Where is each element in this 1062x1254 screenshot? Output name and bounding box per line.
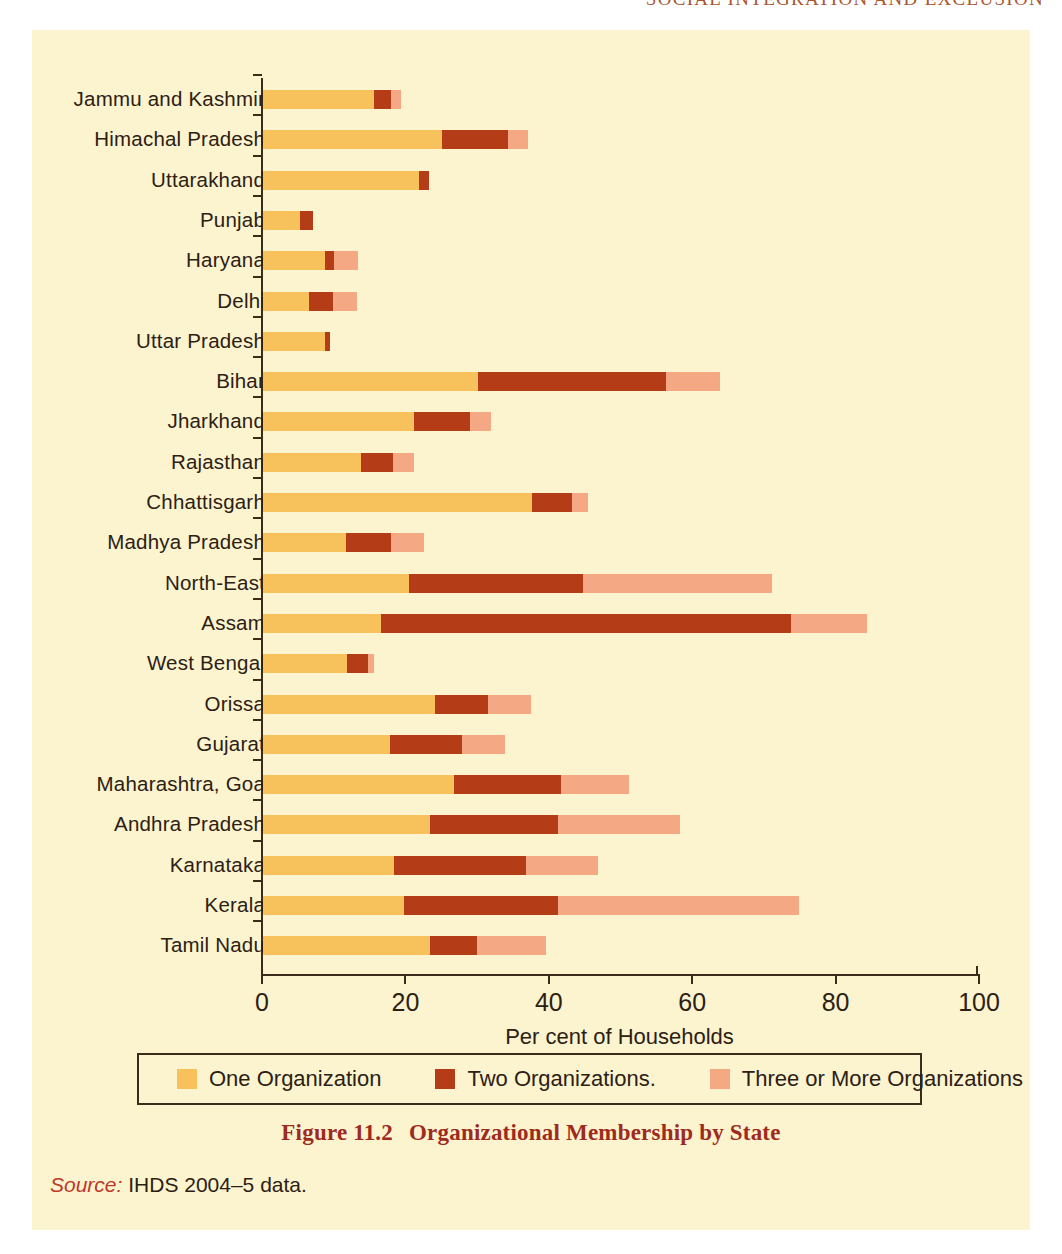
figure-caption: Figure 11.2Organizational Membership by … (32, 1120, 1030, 1146)
running-head: SOCIAL INTEGRATION AND EXCLUSION (0, 0, 1062, 10)
bar-segment (263, 775, 454, 794)
bar-segment (263, 332, 325, 351)
x-axis-tick-label: 20 (391, 988, 419, 1017)
bar-segment (263, 695, 435, 714)
bar-segment (361, 453, 394, 472)
category-label: Andhra Pradesh (114, 812, 265, 836)
bar-segment (488, 695, 531, 714)
bar-segment (263, 815, 430, 834)
bar-row: Uttarakhand (32, 161, 1030, 199)
bar-segment (334, 251, 358, 270)
bar-segment (346, 533, 390, 552)
y-axis-tick (253, 74, 262, 76)
legend-swatch-icon (710, 1069, 730, 1089)
bar-segment (526, 856, 598, 875)
category-label: Jharkhand (167, 409, 265, 433)
category-label: Bihar (216, 369, 265, 393)
bar-row: Uttar Pradesh (32, 322, 1030, 360)
legend-swatch-icon (177, 1069, 197, 1089)
bar-segment (309, 292, 333, 311)
bar-row: West Bengal (32, 644, 1030, 682)
bar-segment (442, 130, 508, 149)
bar-segment (263, 171, 419, 190)
x-axis-tick (404, 974, 406, 984)
legend-item-one-organization: One Organization (177, 1066, 381, 1092)
bar-segment (666, 372, 720, 391)
bar-row: Jammu and Kashmir (32, 80, 1030, 118)
bar-segment (263, 614, 381, 633)
legend-item-two-organizations: Two Organizations. (435, 1066, 655, 1092)
bar-row: Kerala (32, 886, 1030, 924)
bar-segment (263, 130, 442, 149)
source-label: Source: (50, 1173, 122, 1196)
bar-segment (508, 130, 528, 149)
bar-row: Punjab (32, 201, 1030, 239)
source-text: IHDS 2004–5 data. (122, 1173, 306, 1196)
bar-segment (391, 90, 401, 109)
bar-segment (572, 493, 588, 512)
category-label: Rajasthan (171, 450, 265, 474)
bar-segment (263, 453, 361, 472)
bar-segment (263, 493, 532, 512)
x-axis-tick (691, 974, 693, 984)
legend-item-three-or-more-organizations: Three or More Organizations (710, 1066, 1023, 1092)
category-label: Maharashtra, Goa (97, 772, 265, 796)
figure-source: Source: IHDS 2004–5 data. (50, 1173, 307, 1197)
bar-segment (390, 735, 462, 754)
category-label: Delhi (217, 289, 265, 313)
bar-segment (454, 775, 561, 794)
bar-row: North-East (32, 564, 1030, 602)
bar-segment (263, 90, 374, 109)
x-axis-tick (978, 974, 980, 984)
bar-segment (419, 171, 428, 190)
bar-segment (300, 211, 313, 230)
bar-segment (477, 936, 547, 955)
x-axis-tick-label: 60 (678, 988, 706, 1017)
bar-segment (263, 574, 409, 593)
legend-swatch-icon (435, 1069, 455, 1089)
bar-chart-plot: 020406080100 Jammu and KashmirHimachal P… (32, 30, 1030, 990)
x-axis-tick (548, 974, 550, 984)
x-axis-line (261, 974, 978, 976)
x-axis-title: Per cent of Households (261, 1024, 978, 1050)
category-label: Punjab (200, 208, 265, 232)
chart-legend: One Organization Two Organizations. Thre… (137, 1053, 922, 1105)
category-label: Jammu and Kashmir (74, 87, 265, 111)
x-axis-tick-label: 0 (255, 988, 269, 1017)
category-label: Karnataka (170, 853, 265, 877)
bar-segment (532, 493, 572, 512)
bar-segment (347, 654, 369, 673)
category-label: North-East (165, 571, 265, 595)
bar-segment (394, 856, 526, 875)
category-label: Uttar Pradesh (136, 329, 265, 353)
category-label: Tamil Nadu (160, 933, 265, 957)
bar-segment (263, 856, 394, 875)
figure-number: Figure 11.2 (281, 1120, 393, 1145)
bar-segment (325, 251, 334, 270)
category-label: Orissa (205, 692, 265, 716)
bar-segment (263, 372, 478, 391)
legend-label: One Organization (209, 1066, 381, 1092)
bar-segment (409, 574, 584, 593)
x-axis-tick-label: 40 (535, 988, 563, 1017)
bar-segment (263, 654, 347, 673)
figure-panel: 020406080100 Jammu and KashmirHimachal P… (32, 30, 1030, 1230)
bar-segment (263, 936, 430, 955)
bar-row: Tamil Nadu (32, 926, 1030, 964)
category-label: Haryana (186, 248, 265, 272)
bar-segment (263, 735, 390, 754)
bar-segment (583, 574, 772, 593)
bar-row: Madhya Pradesh (32, 523, 1030, 561)
category-label: Himachal Pradesh (94, 127, 265, 151)
bar-segment (391, 533, 424, 552)
bar-segment (368, 654, 374, 673)
bar-segment (414, 412, 471, 431)
bar-segment (374, 90, 390, 109)
bar-segment (393, 453, 414, 472)
bar-segment (263, 251, 325, 270)
category-label: Uttarakhand (151, 168, 265, 192)
bar-segment (263, 896, 404, 915)
category-label: West Bengal (147, 651, 265, 675)
category-label: Gujarat (196, 732, 265, 756)
bar-row: Maharashtra, Goa (32, 765, 1030, 803)
